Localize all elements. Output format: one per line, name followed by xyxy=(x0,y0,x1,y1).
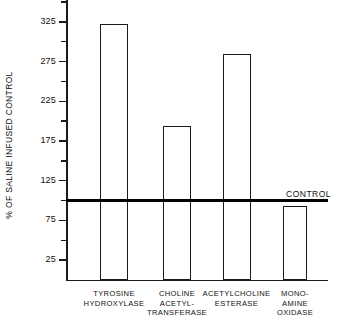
y-tick-major xyxy=(59,140,67,142)
y-tick-label: 275 xyxy=(16,57,56,67)
x-category-label-line: MONO- xyxy=(255,289,335,299)
y-tick-major xyxy=(59,220,67,222)
y-tick-minor xyxy=(61,41,67,42)
bar xyxy=(283,206,307,280)
bar xyxy=(223,54,251,280)
y-tick-label: 75 xyxy=(16,215,56,225)
y-tick-minor xyxy=(61,81,67,82)
x-category-label-line: TRANSFERASE xyxy=(137,308,217,318)
y-tick-minor xyxy=(61,120,67,121)
y-tick-minor xyxy=(61,240,67,241)
x-category-label: MONO-AMINEOXIDASE xyxy=(255,289,335,318)
bar-chart-figure: % OF SALINE INFUSED CONTROL 325275225175… xyxy=(0,0,345,323)
plot-area: 3252752251751257525 CONTROL TYROSINEHYDR… xyxy=(0,0,345,323)
x-category-label-line: OXIDASE xyxy=(255,308,335,318)
bar xyxy=(100,24,128,280)
y-tick-label-text: 75 xyxy=(20,215,56,224)
y-tick-label: 225 xyxy=(16,96,56,106)
y-tick-label: 25 xyxy=(16,255,56,265)
bar xyxy=(163,126,191,280)
y-tick-label: 175 xyxy=(16,136,56,146)
y-tick-label-text: 25 xyxy=(20,255,56,264)
y-tick-label-text: 175 xyxy=(20,136,56,145)
x-category-label-line: AMINE xyxy=(255,299,335,309)
y-tick-label: 325 xyxy=(16,17,56,27)
y-tick-label-text: 325 xyxy=(20,17,56,26)
y-tick-major xyxy=(59,180,67,182)
y-tick-major xyxy=(59,21,67,23)
y-tick-label-text: 275 xyxy=(20,57,56,66)
control-reference-line xyxy=(66,199,328,202)
control-reference-label: CONTROL xyxy=(286,189,331,199)
y-tick-minor xyxy=(61,160,67,161)
y-tick-major xyxy=(59,61,67,63)
y-tick-major xyxy=(59,101,67,103)
y-tick-minor xyxy=(61,1,67,2)
y-tick-label-text: 225 xyxy=(20,96,56,105)
y-tick-label-text: 125 xyxy=(20,176,56,185)
y-tick-label: 125 xyxy=(16,176,56,186)
y-tick-major xyxy=(59,259,67,261)
